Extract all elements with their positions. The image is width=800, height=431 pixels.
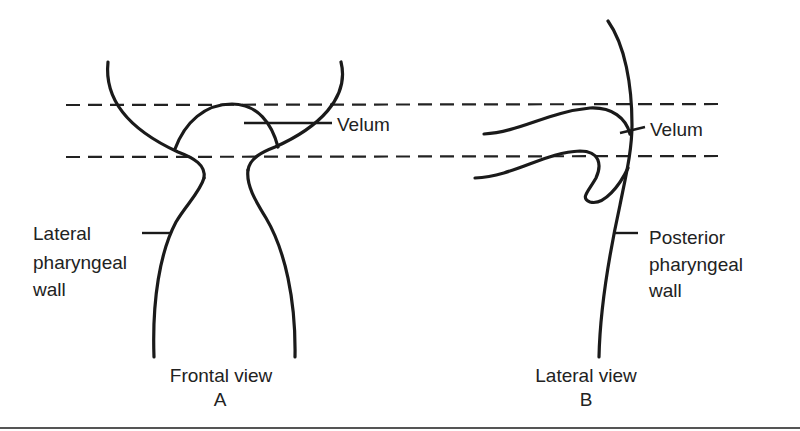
upper-level-dashed-line	[66, 104, 722, 105]
lateral-velum-label: Velum	[650, 119, 703, 140]
frontal-right-pharyngeal-wall	[248, 170, 295, 357]
lateral-wall-label-line2: pharyngeal	[33, 252, 127, 273]
frontal-view-panel: Velum Lateral pharyngeal wall Frontal vi…	[32, 62, 390, 410]
posterior-wall-label-line2: pharyngeal	[649, 254, 743, 275]
lateral-view-panel: Velum Posterior pharyngeal wall Lateral …	[475, 21, 743, 410]
lower-level-dashed-line	[66, 156, 724, 157]
posterior-wall-label-line3: wall	[648, 280, 682, 301]
frontal-velum-label: Velum	[337, 114, 390, 135]
lateral-view-caption: Lateral view	[535, 365, 637, 386]
frontal-velum-dome	[175, 104, 278, 149]
panel-b-letter: B	[580, 389, 593, 410]
lateral-wall-label-line3: wall	[32, 279, 66, 300]
frontal-view-caption: Frontal view	[170, 365, 273, 386]
lateral-wall-label-line1: Lateral	[33, 223, 91, 244]
lateral-velum-lower-surface	[475, 151, 628, 202]
velopharyngeal-diagram: Velum Lateral pharyngeal wall Frontal vi…	[0, 0, 800, 431]
frontal-left-pharyngeal-wall	[154, 178, 204, 357]
frontal-left-upper-curve	[108, 62, 205, 178]
lateral-velum-upper-surface	[484, 108, 630, 134]
panel-a-letter: A	[214, 389, 227, 410]
posterior-wall-label-line1: Posterior	[649, 227, 726, 248]
